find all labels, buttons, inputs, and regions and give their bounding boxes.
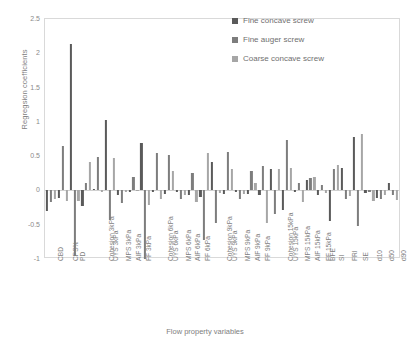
bar[interactable] [207,153,209,190]
bar[interactable] [85,183,87,191]
bar[interactable] [235,190,237,192]
bar[interactable] [113,158,115,190]
bar[interactable] [282,190,284,209]
bar[interactable] [89,162,91,191]
bar[interactable] [66,190,68,201]
bar[interactable] [227,152,229,190]
bar[interactable] [353,137,355,190]
bar[interactable] [349,190,351,195]
bar[interactable] [58,190,60,198]
bar[interactable] [219,190,221,193]
bar[interactable] [231,169,233,190]
bar[interactable] [258,190,260,194]
bar[interactable] [184,190,186,194]
bar[interactable] [266,190,268,222]
bar[interactable] [187,190,189,195]
bar[interactable] [125,190,127,192]
bar[interactable] [239,190,241,198]
bar[interactable] [368,190,370,191]
bar[interactable] [345,190,347,199]
bar[interactable] [69,44,71,190]
bar[interactable] [294,190,296,192]
bar[interactable] [337,165,339,190]
bar[interactable] [357,190,359,226]
bar[interactable] [341,168,343,191]
bar[interactable] [274,190,276,213]
bar[interactable] [313,177,315,190]
y-axis-tick: 2 [36,49,40,56]
chart-legend: Fine concave screwFine auger screwCoarse… [232,16,400,73]
y-axis-tick: 1 [36,117,40,124]
bar[interactable] [250,171,252,191]
bar[interactable] [301,190,303,202]
bar[interactable] [140,143,142,190]
bar[interactable] [262,166,264,191]
bar[interactable] [77,190,79,201]
bar[interactable] [50,190,52,202]
bar[interactable] [243,190,245,193]
bar[interactable] [172,171,174,190]
x-tick-cell: UYS 15kPa [269,259,281,319]
bar[interactable] [101,190,103,191]
bar[interactable] [372,190,374,200]
bar[interactable] [180,190,182,199]
bar[interactable] [211,162,213,190]
bar[interactable] [376,190,378,198]
bar[interactable] [384,190,386,194]
bar[interactable] [215,190,217,222]
bar[interactable] [388,183,390,191]
bar[interactable] [396,190,398,200]
bar[interactable] [128,190,130,191]
bar[interactable] [97,157,99,191]
bar[interactable] [278,169,280,190]
bar[interactable] [309,178,311,190]
bar[interactable] [136,190,138,191]
legend-item[interactable]: Coarse concave screw [232,54,400,63]
bar[interactable] [364,190,366,193]
bar[interactable] [62,146,64,191]
bar[interactable] [176,190,178,191]
bar[interactable] [168,155,170,191]
bar[interactable] [117,190,119,194]
bar[interactable] [246,190,248,193]
bar[interactable] [93,189,95,190]
bar[interactable] [317,190,319,194]
bar[interactable] [199,190,201,197]
bar[interactable] [132,177,134,191]
bar[interactable] [156,153,158,190]
bar[interactable] [195,190,197,202]
bar[interactable] [333,169,335,190]
x-axis-tick: FF 3kPa [145,236,152,261]
bar[interactable] [164,190,166,193]
bar[interactable] [121,190,123,203]
bar[interactable] [148,190,150,204]
bar[interactable] [54,190,56,199]
bar[interactable] [290,168,292,191]
bar[interactable] [305,180,307,190]
x-tick-cell: MPS 6kPa [163,259,175,319]
bar[interactable] [46,190,48,211]
legend-item[interactable]: Fine auger screw [232,35,400,44]
x-axis-tick: UYS 6kPa [172,231,179,261]
bar[interactable] [321,185,323,190]
bar[interactable] [270,169,272,190]
bar[interactable] [160,190,162,199]
bar[interactable] [329,190,331,221]
bar[interactable] [298,183,300,191]
bar[interactable] [254,183,256,191]
bar[interactable] [223,190,225,193]
bar[interactable] [286,140,288,190]
bar[interactable] [191,173,193,190]
bar[interactable] [380,190,382,198]
x-axis-tick: MPS 3kPa [125,230,132,261]
bar[interactable] [392,190,394,194]
x-tick-cell: FRI [340,259,352,319]
bar[interactable] [203,190,205,239]
bar-group [187,19,199,257]
bar[interactable] [360,134,362,190]
bar[interactable] [81,190,83,205]
bar[interactable] [325,190,327,193]
legend-item[interactable]: Fine concave screw [232,16,400,25]
bar[interactable] [152,190,154,192]
bar[interactable] [105,120,107,190]
